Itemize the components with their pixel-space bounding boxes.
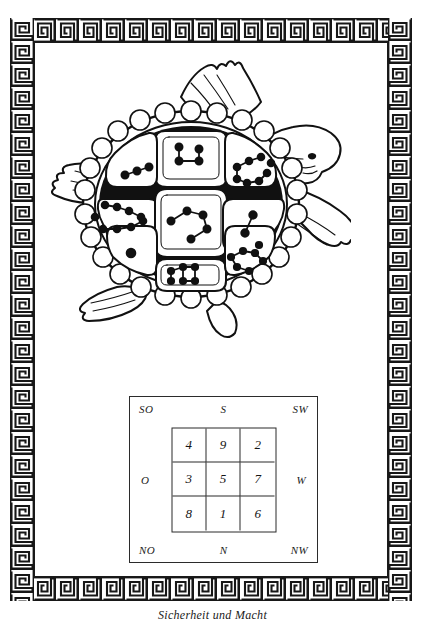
magic-square-cell: 7 <box>241 462 275 496</box>
page-root: SO S SW O W NO N NW 4 9 2 3 5 7 8 1 6 <box>0 0 425 641</box>
direction-label-n: N <box>220 544 228 556</box>
meander-border-bottom <box>10 577 412 601</box>
magic-square-cell: 2 <box>241 428 275 462</box>
direction-label-w: W <box>296 474 306 486</box>
direction-label-o: O <box>141 474 149 486</box>
magic-square-cell: 3 <box>172 462 206 496</box>
decorative-frame: SO S SW O W NO N NW 4 9 2 3 5 7 8 1 6 <box>10 18 412 601</box>
direction-label-s: S <box>221 403 227 415</box>
magic-square-cell: 5 <box>206 462 240 496</box>
turtle-tail <box>207 301 237 337</box>
turtle-illustration <box>35 49 351 339</box>
meander-border-left <box>10 18 34 601</box>
figure-caption: Sicherheit und Macht <box>0 608 425 623</box>
magic-square-cell: 4 <box>172 428 206 462</box>
magic-square-cell: 6 <box>241 497 275 531</box>
direction-label-no: NO <box>139 544 155 556</box>
meander-border-top <box>10 18 412 42</box>
shell-plate-center <box>155 189 227 257</box>
direction-label-nw: NW <box>291 544 308 556</box>
shell-plate-bottom <box>156 259 226 291</box>
magic-square-grid: 4 9 2 3 5 7 8 1 6 <box>171 427 276 532</box>
direction-label-so: SO <box>139 403 153 415</box>
direction-label-sw: SW <box>293 403 308 415</box>
magic-square-cell: 1 <box>206 497 240 531</box>
turtle-eye <box>308 153 316 159</box>
dots-1 <box>127 249 136 258</box>
illustration-canvas: SO S SW O W NO N NW 4 9 2 3 5 7 8 1 6 <box>35 43 387 576</box>
magic-square-cell: 8 <box>172 497 206 531</box>
magic-square-panel: SO S SW O W NO N NW 4 9 2 3 5 7 8 1 6 <box>129 396 318 563</box>
magic-square-cell: 9 <box>206 428 240 462</box>
meander-border-right <box>388 18 412 601</box>
